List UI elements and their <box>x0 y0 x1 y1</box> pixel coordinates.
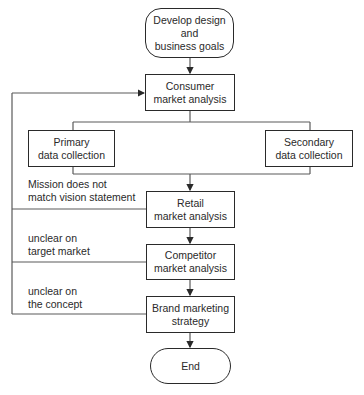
feedback-label-brand: unclear on the concept <box>28 285 82 311</box>
competitor-line-2: market analysis <box>154 262 227 275</box>
end-node: End <box>150 348 231 384</box>
feedback-competitor-line-2: target market <box>28 245 90 258</box>
secondary-line-1: Secondary <box>284 136 334 149</box>
feedback-label-retail: Mission does not match vision statement <box>28 178 135 204</box>
primary-data-collection-node: Primary data collection <box>28 130 115 167</box>
consumer-market-analysis-node: Consumer market analysis <box>145 74 235 111</box>
secondary-line-2: data collection <box>275 149 342 162</box>
brand-line-1: Brand marketing <box>152 302 229 315</box>
feedback-competitor-line-1: unclear on <box>28 232 90 245</box>
retail-market-analysis-node: Retail market analysis <box>146 191 235 228</box>
consumer-line-2: market analysis <box>154 93 227 106</box>
feedback-label-competitor: unclear on target market <box>28 232 90 258</box>
brand-line-2: strategy <box>172 315 209 328</box>
primary-line-1: Primary <box>53 136 89 149</box>
start-line-2: and <box>181 27 199 40</box>
secondary-data-collection-node: Secondary data collection <box>265 130 353 167</box>
feedback-brand-line-2: the concept <box>28 298 82 311</box>
retail-line-1: Retail <box>177 197 204 210</box>
consumer-line-1: Consumer <box>166 80 214 93</box>
feedback-brand-line-1: unclear on <box>28 285 82 298</box>
brand-marketing-strategy-node: Brand marketing strategy <box>146 296 235 333</box>
competitor-market-analysis-node: Competitor market analysis <box>146 244 235 280</box>
start-line-3: business goals <box>155 40 224 53</box>
feedback-retail-line-1: Mission does not <box>28 178 135 191</box>
feedback-retail-line-2: match vision statement <box>28 191 135 204</box>
end-label: End <box>181 360 200 373</box>
retail-line-2: market analysis <box>154 210 227 223</box>
start-line-1: Develop design <box>153 14 225 27</box>
competitor-line-1: Competitor <box>165 249 216 262</box>
primary-line-2: data collection <box>38 149 105 162</box>
start-node: Develop design and business goals <box>145 8 234 58</box>
